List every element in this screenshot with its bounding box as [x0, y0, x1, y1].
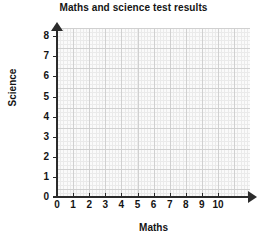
y-axis-tick: [53, 177, 57, 178]
y-axis-tick-label: 3: [31, 131, 49, 142]
x-axis-tick: [105, 193, 106, 197]
x-axis-tick: [121, 193, 122, 197]
x-axis-tick: [73, 193, 74, 197]
y-axis-tick: [53, 137, 57, 138]
y-axis-tick: [53, 97, 57, 98]
y-axis-tick-label: 2: [31, 151, 49, 162]
x-axis-tick: [186, 193, 187, 197]
y-axis-tick-label: 8: [31, 30, 49, 41]
x-axis-tick: [89, 193, 90, 197]
y-axis-tick-label: 1: [31, 171, 49, 182]
y-axis-line: [56, 30, 58, 198]
x-axis-tick: [170, 193, 171, 197]
x-axis-tick: [154, 193, 155, 197]
x-axis-arrow-icon: [248, 191, 257, 203]
x-axis-title: Maths: [57, 222, 250, 233]
y-axis-tick-label: 7: [31, 50, 49, 61]
chart-title: Maths and science test results: [0, 2, 267, 13]
y-axis-tick: [53, 36, 57, 37]
y-axis-tick: [53, 56, 57, 57]
x-axis-tick: [57, 193, 58, 197]
x-axis-tick: [138, 193, 139, 197]
y-axis-tick-label: 5: [31, 91, 49, 102]
plot-area: [57, 28, 250, 197]
y-axis-arrow-icon: [51, 22, 63, 31]
x-axis-tick: [218, 193, 219, 197]
y-axis-tick-label: 4: [31, 111, 49, 122]
y-axis-tick: [53, 76, 57, 77]
y-axis-tick-label: 6: [31, 70, 49, 81]
y-axis-title: Science: [7, 53, 18, 123]
y-axis-tick-label: 0: [31, 191, 49, 202]
y-axis-tick: [53, 117, 57, 118]
y-axis-tick: [53, 157, 57, 158]
x-axis-tick-label: 10: [208, 199, 228, 210]
x-axis-line: [53, 196, 249, 198]
y-axis-tick: [53, 197, 57, 198]
chart-container: Maths and science test results 012345678…: [0, 0, 267, 245]
x-axis-tick: [202, 193, 203, 197]
